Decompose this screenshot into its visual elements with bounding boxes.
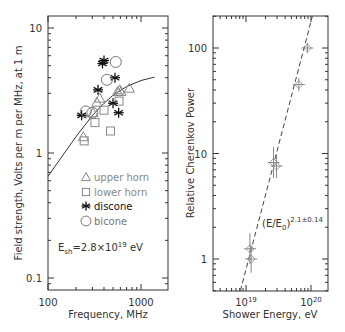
triangle-marker-icon [124,83,134,92]
y-tick-label: 10 [194,149,207,160]
y-tick-label: 0.1 [26,273,42,284]
energy-annotation: Esh=2.8×1019 eV [58,241,143,256]
left-axis-ticks: 10010000.1110 [26,16,168,308]
legend-label: upper horn [94,172,149,183]
power-law-annotation: (E/E0)2.1±0.14 [262,216,323,232]
square-marker-icon [91,119,99,127]
figure: 10010000.1110 upper hornlower horndiscon… [0,0,345,332]
left-data-points [77,55,135,144]
legend: upper hornlower horndisconebicone [81,172,149,227]
legend-label: discone [94,201,132,212]
asterisk-marker-icon [114,108,124,118]
y-tick-label: 1 [36,148,42,159]
data-point-errorbar-icon [268,147,280,178]
y-tick-label: 100 [188,43,207,54]
x-tick-label: 1000 [128,297,153,308]
square-marker-icon [82,188,89,195]
square-marker-icon [100,106,108,114]
x-tick-label: 1019 [235,296,257,308]
right-x-axis-label: Shower Energy, eV [223,309,318,320]
asterisk-marker-icon [93,85,103,95]
asterisk-marker-icon [108,98,118,108]
asterisk-marker-icon [82,202,91,211]
y-tick-label: 1 [201,254,207,265]
data-point-errorbar-icon [271,154,283,178]
legend-label: bicone [94,216,127,227]
legend-label: lower horn [94,187,147,198]
right-y-axis-label: Relative Cherenkov Power [185,87,196,218]
triangle-marker-icon [82,173,91,181]
left-y-axis-label: Field strength, Volts per m per MHz, at … [13,46,24,261]
data-point-errorbar-icon [301,43,313,53]
right-data-points [244,43,313,273]
x-tick-label: 1020 [300,296,322,308]
circle-marker-icon [110,56,121,67]
circle-marker-icon [81,216,91,226]
right-plot-energy: 10191020110100 Shower Energy, eV Relativ… [185,16,328,320]
left-x-axis-label: Frequency, MHz [68,309,147,320]
square-marker-icon [107,127,115,135]
data-point-errorbar-icon [293,78,305,91]
right-axis-ticks: 10191020110100 [188,16,328,308]
y-tick-label: 10 [29,23,42,34]
x-tick-label: 100 [38,297,57,308]
right-plot-frame [213,16,328,291]
left-plot-frequency: 10010000.1110 upper hornlower horndiscon… [13,16,168,320]
